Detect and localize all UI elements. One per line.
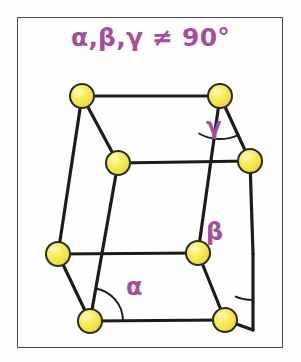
- lattice-atom: [46, 242, 70, 266]
- atom-sphere: [208, 84, 232, 108]
- atom-sphere: [238, 149, 262, 173]
- atom-highlight: [51, 247, 59, 253]
- lattice-edge: [90, 320, 225, 321]
- lattice-atom: [208, 84, 232, 108]
- lattice-drawing: [0, 0, 301, 362]
- atom-highlight: [83, 314, 91, 320]
- atom-highlight: [218, 313, 226, 319]
- lattice-edge-group: [58, 96, 253, 330]
- atom-highlight: [75, 89, 83, 95]
- atom-highlight: [213, 89, 221, 95]
- atom-highlight: [111, 156, 119, 162]
- atom-sphere: [213, 308, 237, 332]
- atom-sphere: [46, 242, 70, 266]
- angle-condition-title: α,β,γ ≠ 90°: [0, 25, 301, 50]
- atom-sphere: [70, 84, 94, 108]
- atom-highlight: [191, 246, 199, 252]
- lattice-edge: [58, 96, 82, 254]
- lattice-edge: [118, 161, 250, 163]
- lattice-edge: [58, 253, 198, 254]
- atom-highlight: [243, 154, 251, 160]
- atom-sphere: [78, 309, 102, 333]
- atom-sphere: [106, 151, 130, 175]
- beta-angle-label: β: [206, 220, 223, 244]
- lattice-edge: [250, 161, 253, 254]
- beta-arc: [235, 296, 253, 300]
- lattice-atom: [70, 84, 94, 108]
- alpha-angle-label: α: [126, 275, 143, 299]
- gamma-angle-label: γ: [206, 115, 222, 138]
- lattice-atom: [238, 149, 262, 173]
- lattice-atom: [213, 308, 237, 332]
- unit-cell-figure: α,β,γ ≠ 90° α β γ: [0, 0, 301, 362]
- lattice-atom: [78, 309, 102, 333]
- lattice-atom: [106, 151, 130, 175]
